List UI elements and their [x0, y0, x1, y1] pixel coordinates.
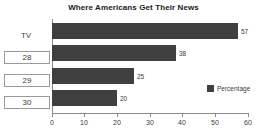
x-tick-mark	[52, 113, 53, 117]
category-label-28[interactable]: 28	[4, 51, 50, 64]
category-label-30[interactable]: 30	[4, 96, 50, 109]
x-tick-mark	[150, 113, 151, 117]
x-tick-mark	[84, 113, 85, 117]
category-label-tv: TV	[4, 29, 48, 42]
bar-30[interactable]	[52, 90, 117, 106]
x-tick-label-20: 20	[107, 119, 127, 126]
bar-chart: Where Americans Get Their News TV 28 29 …	[0, 0, 267, 137]
bar-value-29: 25	[137, 73, 144, 80]
bar-29[interactable]	[52, 68, 134, 84]
x-tick-mark	[215, 113, 216, 117]
bar-row: 57	[52, 23, 248, 39]
bar-row: 25	[52, 68, 248, 84]
bar-tv[interactable]	[52, 23, 238, 39]
bar-value-30: 20	[120, 95, 127, 102]
plot-area: 57 38 25 20	[52, 19, 248, 113]
x-tick-label-30: 30	[140, 119, 160, 126]
x-tick-label-0: 0	[42, 119, 62, 126]
legend-label-percentage: Percentage	[217, 85, 250, 92]
x-tick-mark	[182, 113, 183, 117]
x-tick-label-40: 40	[172, 119, 192, 126]
bar-value-tv: 57	[241, 28, 248, 35]
legend-swatch-percentage	[207, 85, 214, 92]
x-tick-label-60: 60	[238, 119, 258, 126]
x-tick-mark	[248, 113, 249, 117]
category-label-29[interactable]: 29	[4, 74, 50, 87]
x-tick-mark	[117, 113, 118, 117]
bar-value-28: 38	[179, 50, 186, 57]
bar-28[interactable]	[52, 45, 176, 61]
chart-title: Where Americans Get Their News	[0, 3, 267, 12]
bar-row: 38	[52, 45, 248, 61]
x-tick-label-10: 10	[74, 119, 94, 126]
legend: Percentage	[207, 85, 250, 92]
bar-row: 20	[52, 90, 248, 106]
x-tick-label-50: 50	[205, 119, 225, 126]
